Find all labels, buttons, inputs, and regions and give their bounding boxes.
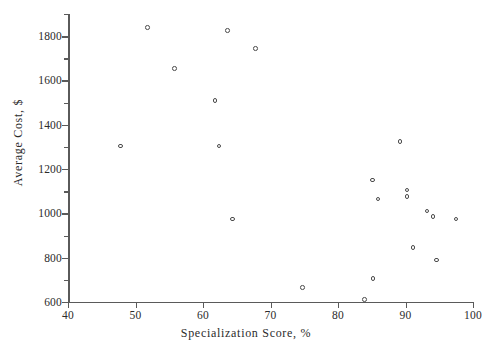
y-axis-tick: [62, 258, 68, 259]
x-axis-tick-label: 60: [183, 309, 223, 321]
y-axis-tick-label: 1000: [22, 207, 62, 219]
y-axis-minor-tick: [64, 280, 68, 281]
y-axis-tick: [62, 80, 68, 81]
x-axis-tick: [338, 302, 339, 308]
y-axis-line: [68, 14, 70, 303]
y-axis-minor-tick: [64, 58, 68, 59]
x-axis-tick-label: 70: [251, 309, 291, 321]
data-point: [411, 245, 416, 250]
y-axis-tick-label: 800: [22, 252, 62, 264]
x-axis-tick-label: 80: [318, 309, 358, 321]
x-axis-tick: [271, 302, 272, 308]
y-axis-minor-tick: [64, 147, 68, 148]
y-axis-minor-tick: [64, 191, 68, 192]
data-point: [434, 258, 439, 263]
y-axis-tick: [62, 125, 68, 126]
data-point: [118, 144, 123, 149]
y-axis-tick-label: 1200: [22, 163, 62, 175]
data-point: [253, 46, 258, 51]
y-axis-tick-label: 1800: [22, 30, 62, 42]
y-axis-title: Average Cost, $: [11, 63, 26, 223]
data-point: [145, 25, 150, 30]
x-axis-tick: [136, 302, 137, 308]
data-point: [172, 66, 177, 71]
x-axis-tick-label: 100: [453, 309, 492, 321]
y-axis-tick: [62, 213, 68, 214]
data-point: [405, 194, 410, 199]
data-point: [225, 28, 230, 33]
x-axis-title: Specialization Score, %: [0, 326, 492, 341]
x-axis-tick-label: 90: [386, 309, 426, 321]
x-axis-tick: [406, 302, 407, 308]
y-axis-tick-label: 600: [22, 296, 62, 308]
x-axis-tick-label: 40: [48, 309, 88, 321]
scatter-plot-figure: 6008001000120014001600180040506070809010…: [0, 0, 492, 350]
data-point: [370, 178, 375, 183]
x-axis-tick-label: 50: [116, 309, 156, 321]
data-point: [431, 214, 436, 219]
y-axis-tick: [62, 169, 68, 170]
x-axis-tick: [473, 302, 474, 308]
data-point: [425, 209, 430, 214]
data-point: [213, 98, 218, 103]
data-point: [217, 144, 222, 149]
data-point: [362, 297, 367, 302]
y-axis-minor-tick: [64, 14, 68, 15]
data-point: [371, 276, 376, 281]
y-axis-minor-tick: [64, 103, 68, 104]
data-point: [398, 139, 403, 144]
x-axis-tick: [68, 302, 69, 308]
y-axis-minor-tick: [64, 236, 68, 237]
data-point: [376, 197, 381, 202]
y-axis-tick: [62, 36, 68, 37]
data-point: [454, 217, 459, 222]
y-axis-tick-label: 1400: [22, 119, 62, 131]
data-point: [405, 188, 410, 193]
y-axis-tick-label: 1600: [22, 74, 62, 86]
data-point: [230, 217, 235, 222]
x-axis-tick: [203, 302, 204, 308]
data-point: [300, 285, 305, 290]
